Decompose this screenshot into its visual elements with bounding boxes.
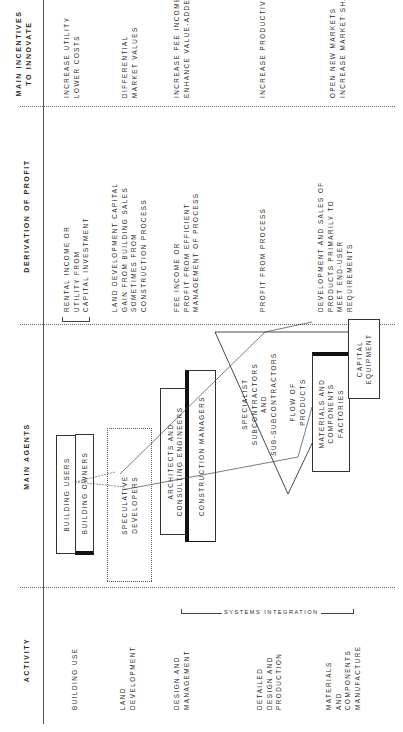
materials-factories-label: MATERIALS AND COMPONENTS FACTORIES — [317, 379, 346, 448]
capital-equipment-label: CAPITAL EQUIPMENT — [355, 334, 374, 385]
construction-industry-diagram: ACTIVITY MAIN AGENTS DERIVATION OF PROFI… — [0, 0, 403, 732]
profit-development-sales: DEVELOPMENT AND SALES OF PRODUCTS PRIMAR… — [316, 181, 354, 312]
rental-bracket — [62, 317, 90, 322]
incentive-fee-income: INCREASE FEE INCOME ENHANCE VALUE-ADDED — [172, 0, 191, 98]
capital-equipment-box: CAPITAL EQUIPMENT — [348, 319, 380, 399]
flow-of-products-label: FLOW OF PRODUCTS — [288, 372, 307, 432]
profit-rental-income: RENTAL INCOME OR UTILITY FROM CAPITAL IN… — [62, 217, 91, 312]
profit-fee-income: FEE INCOME OR PROFIT FROM EFFICIENT MANA… — [172, 192, 201, 312]
materials-factories-box: MATERIALS AND COMPONENTS FACTORIES — [312, 352, 350, 472]
incentive-new-markets: OPEN NEW MARKETS INCREASE MARKET SHARE — [328, 0, 347, 98]
specialist-subcontractors-label: SPECIALIST SUBCONTRACTORS AND SUB-SUBCON… — [240, 344, 278, 464]
profit-land-development: LAND DEVELOPMENT CAPITAL GAIN FROM BUILD… — [110, 182, 148, 312]
incentive-productivity: INCREASE PRODUCTIVITY — [258, 0, 268, 98]
profit-from-process: PROFIT FROM PROCESS — [258, 208, 268, 312]
incentive-market-values: DIFFERENTIAL MARKET VALUES — [120, 26, 139, 98]
incentive-increase-utility: INCREASE UTILITY LOWER COSTS — [62, 17, 81, 98]
